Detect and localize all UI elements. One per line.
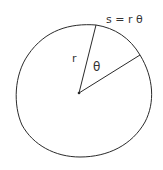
circle-diagram: s = r θ r θ xyxy=(0,0,163,170)
center-point xyxy=(78,92,81,95)
radius-line-2 xyxy=(79,55,140,93)
radius-label: r xyxy=(72,52,77,65)
angle-label: θ xyxy=(93,60,100,74)
radius-line-1 xyxy=(79,25,96,93)
arc-length-label: s = r θ xyxy=(106,13,143,26)
circle-outline xyxy=(16,25,151,157)
